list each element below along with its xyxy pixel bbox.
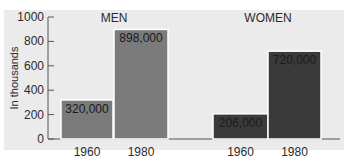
- y-axis-title: In thousands: [8, 46, 20, 109]
- bar-chart: 02004006008001000In thousandsMEN320,0001…: [0, 0, 352, 164]
- bar-value-label: 720,000: [273, 53, 317, 67]
- x-tick-label: 1980: [128, 145, 155, 159]
- y-tick-label: 400: [24, 83, 44, 97]
- y-tick-label: 200: [24, 108, 44, 122]
- group-label-women: WOMEN: [244, 11, 291, 25]
- x-tick-label: 1980: [281, 145, 308, 159]
- bar-men-1980: [114, 29, 168, 139]
- group-label-men: MEN: [101, 11, 128, 25]
- y-tick-label: 0: [37, 132, 44, 146]
- y-tick-label: 1000: [17, 10, 44, 24]
- x-tick-label: 1960: [74, 145, 101, 159]
- bar-value-label: 320,000: [65, 102, 109, 116]
- bar-value-label: 206,000: [219, 116, 263, 130]
- y-tick-label: 800: [24, 34, 44, 48]
- y-tick-label: 600: [24, 59, 44, 73]
- bar-value-label: 898,000: [119, 31, 163, 45]
- x-tick-label: 1960: [227, 145, 254, 159]
